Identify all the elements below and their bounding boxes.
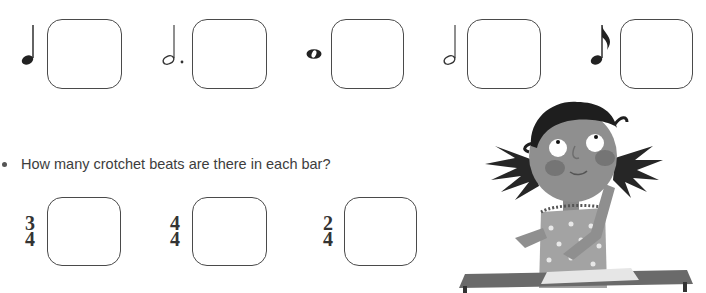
answer-box-3-4[interactable]	[47, 197, 121, 266]
time-signature-bottom: 4	[23, 231, 37, 247]
time-signature-bottom: 4	[168, 231, 182, 247]
answer-box-4-4[interactable]	[192, 197, 267, 266]
crotchet-note-icon	[12, 22, 38, 68]
time-signature-bottom: 4	[321, 231, 335, 247]
quaver-note-icon	[588, 22, 616, 68]
girl-thinking-illustration	[455, 88, 700, 293]
time-signature-4-4: 4 4	[168, 215, 182, 247]
answer-box-2-4[interactable]	[344, 197, 417, 266]
answer-box-semibreve[interactable]	[331, 19, 404, 89]
answer-box-dotted-minim[interactable]	[192, 19, 267, 89]
answer-box-quaver[interactable]	[620, 19, 693, 89]
question-text: How many crotchet beats are there in eac…	[21, 156, 331, 172]
semibreve-note-icon	[304, 47, 324, 61]
bullet-icon	[2, 162, 7, 167]
answer-box-minim[interactable]	[467, 19, 541, 89]
time-signature-3-4: 3 4	[23, 215, 37, 247]
dotted-minim-note-icon	[156, 22, 188, 68]
minim-note-icon	[440, 22, 464, 68]
time-signature-2-4: 2 4	[321, 215, 335, 247]
answer-box-crotchet[interactable]	[47, 19, 122, 89]
crotchet-beats-question: How many crotchet beats are there in eac…	[0, 156, 331, 172]
